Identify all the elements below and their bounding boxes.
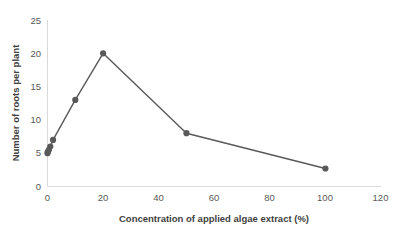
data-point: [100, 50, 106, 56]
x-tick-label-120: 120: [373, 192, 389, 203]
line-chart: 0 5 10 15 20 25 0 20 40 60 80 100 120 Co…: [0, 0, 403, 239]
x-tick-label-60: 60: [209, 192, 220, 203]
data-point: [50, 137, 56, 143]
chart-background: [0, 0, 403, 239]
y-tick-label-25: 25: [30, 15, 41, 26]
chart-container: 0 5 10 15 20 25 0 20 40 60 80 100 120 Co…: [0, 0, 403, 239]
data-point: [72, 97, 78, 103]
x-axis-title: Concentration of applied algae extract (…: [119, 213, 309, 224]
x-tick-label-40: 40: [153, 192, 164, 203]
x-tick-label-20: 20: [98, 192, 109, 203]
y-tick-label-10: 10: [30, 114, 41, 125]
x-tick-label-0: 0: [45, 192, 50, 203]
y-tick-label-15: 15: [30, 81, 41, 92]
x-tick-label-80: 80: [264, 192, 275, 203]
y-tick-label-20: 20: [30, 48, 41, 59]
data-point: [47, 143, 53, 149]
y-tick-label-5: 5: [36, 147, 41, 158]
x-tick-label-100: 100: [317, 192, 333, 203]
data-point: [183, 130, 189, 136]
y-tick-label-0: 0: [36, 181, 41, 192]
y-axis-title: Number of roots per plant: [10, 44, 21, 161]
data-point: [322, 165, 328, 171]
